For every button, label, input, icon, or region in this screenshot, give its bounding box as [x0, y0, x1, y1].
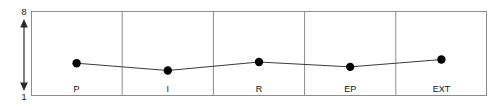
data-point-marker	[346, 63, 354, 71]
x-axis-category-label: P	[31, 85, 122, 94]
data-point-markers	[72, 55, 445, 74]
x-axis-category-label: EXT	[396, 85, 487, 94]
data-point-marker	[437, 55, 445, 63]
data-point-marker	[255, 58, 263, 66]
x-axis-category-label: R	[213, 85, 304, 94]
x-axis-category-label: EP	[305, 85, 396, 94]
data-point-marker	[72, 59, 80, 67]
x-axis-category-label: I	[122, 85, 213, 94]
data-point-marker	[164, 66, 172, 74]
line-chart: 8 1 PIREPEXT	[0, 0, 500, 110]
